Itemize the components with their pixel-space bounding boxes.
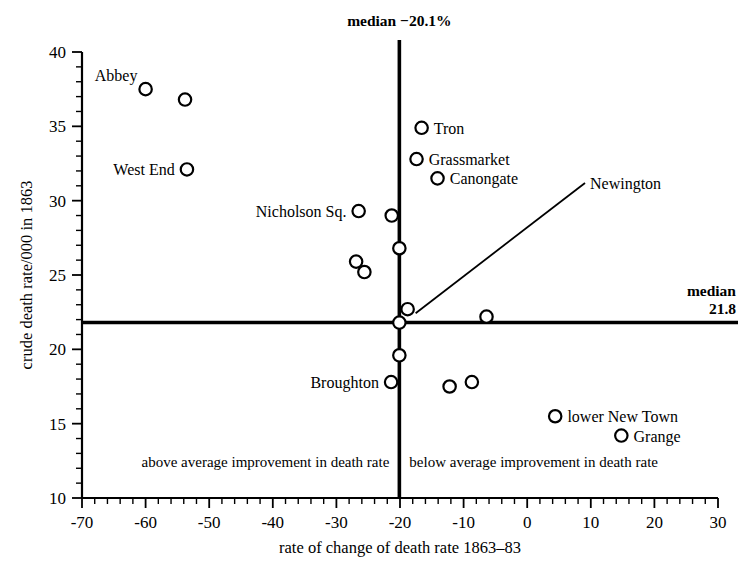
x-tick-label: -50 — [198, 513, 221, 532]
x-tick-label: -60 — [134, 513, 157, 532]
data-point-marker — [410, 153, 422, 165]
y-tick-label: 35 — [49, 117, 66, 136]
x-tick-label: 10 — [582, 513, 599, 532]
data-point-marker — [393, 316, 405, 328]
x-tick-label: 0 — [523, 513, 532, 532]
y-tick-label: 20 — [49, 340, 66, 359]
data-point-marker — [139, 83, 151, 95]
x-tick-label: -70 — [71, 513, 94, 532]
data-point-marker — [443, 380, 455, 392]
y-tick-label: 10 — [49, 489, 66, 508]
x-tick-label: 30 — [710, 513, 727, 532]
data-point-label: Newington — [590, 175, 661, 193]
data-point-marker — [401, 303, 413, 315]
data-point-marker — [415, 122, 427, 134]
y-tick-label: 25 — [49, 266, 66, 285]
data-point-label: Grassmarket — [429, 151, 510, 168]
x-tick-label: -10 — [452, 513, 475, 532]
x-tick-label: -40 — [261, 513, 284, 532]
y-tick-label: 30 — [49, 192, 66, 211]
data-point-label: Canongate — [450, 170, 518, 188]
data-point-label: Nicholson Sq. — [256, 203, 347, 221]
data-point-marker — [393, 242, 405, 254]
data-point-marker — [393, 349, 405, 361]
x-tick-label: 20 — [646, 513, 663, 532]
y-tick-label: 40 — [49, 43, 66, 62]
median-x-label: median −20.1% — [347, 12, 451, 29]
y-tick-label: 15 — [49, 415, 66, 434]
data-point-label: West End — [113, 161, 174, 178]
data-point-marker — [385, 376, 397, 388]
data-point-marker — [179, 93, 191, 105]
x-tick-label: -30 — [325, 513, 348, 532]
scatter-chart: -70-60-50-40-30-20-100102030101520253035… — [0, 0, 747, 579]
data-point-marker — [352, 205, 364, 217]
data-point-label: Abbey — [95, 67, 138, 85]
data-point-label: Broughton — [310, 374, 378, 392]
data-point-label: Grange — [634, 428, 681, 446]
data-point-marker — [358, 266, 370, 278]
data-point-marker — [466, 376, 478, 388]
plot-area: -70-60-50-40-30-20-100102030101520253035… — [0, 0, 747, 579]
quadrant-label-right: below average improvement in death rate — [409, 454, 658, 470]
quadrant-label-left: above average improvement in death rate — [142, 454, 390, 470]
data-point-marker — [181, 163, 193, 175]
data-point-marker — [615, 429, 627, 441]
median-y-label-line2: 21.8 — [709, 300, 736, 317]
data-point-label: Tron — [434, 120, 465, 137]
chart-background — [0, 0, 747, 579]
data-point-marker — [480, 310, 492, 322]
data-point-marker — [549, 410, 561, 422]
data-point-marker — [431, 172, 443, 184]
median-y-label-line1: median — [687, 282, 736, 299]
x-tick-label: -20 — [389, 513, 412, 532]
data-point-marker — [386, 209, 398, 221]
data-point-label: lower New Town — [567, 408, 678, 425]
